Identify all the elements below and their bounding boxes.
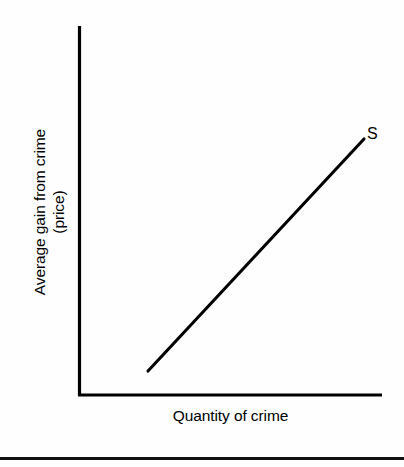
supply-curve-line — [148, 139, 364, 371]
supply-curve-figure: Average gain from crime (price) Quantity… — [0, 0, 404, 467]
footer-divider — [0, 457, 404, 460]
x-axis-label: Quantity of crime — [79, 407, 382, 425]
plot-area — [0, 0, 404, 467]
supply-curve-label: S — [367, 126, 378, 142]
